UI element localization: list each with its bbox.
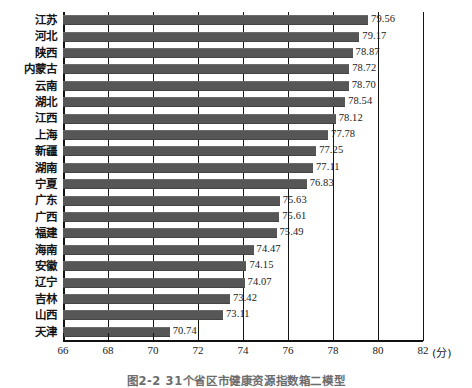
y-axis-label-19: 天津 bbox=[35, 324, 57, 340]
y-axis-label-17: 吉林 bbox=[35, 291, 57, 307]
x-tick-78 bbox=[333, 333, 334, 341]
x-tick-72 bbox=[198, 333, 199, 341]
bar-value-label: 73.42 bbox=[233, 292, 257, 303]
bar bbox=[63, 81, 349, 91]
bar bbox=[63, 15, 368, 25]
bar-value-label: 77.78 bbox=[331, 128, 355, 139]
bar-value-label: 78.72 bbox=[352, 62, 376, 73]
bar bbox=[63, 130, 328, 140]
bar-row: 78.70 bbox=[63, 78, 423, 94]
bar bbox=[63, 97, 345, 107]
x-tick-66 bbox=[63, 333, 64, 341]
y-axis-label-12: 广西 bbox=[35, 209, 57, 225]
bar-rows: 79.5679.1778.8778.7278.7078.5478.1277.78… bbox=[63, 12, 423, 340]
bar-row: 77.78 bbox=[63, 127, 423, 143]
bar-value-label: 76.83 bbox=[310, 177, 334, 188]
bar bbox=[63, 114, 336, 124]
y-axis-label-16: 辽宁 bbox=[35, 274, 57, 290]
bar-value-label: 78.54 bbox=[348, 95, 372, 106]
y-axis-label-2: 陕西 bbox=[35, 45, 57, 61]
bar bbox=[63, 179, 307, 189]
y-axis-label-9: 湖南 bbox=[35, 160, 57, 176]
bar bbox=[63, 278, 245, 288]
bar-row: 79.17 bbox=[63, 28, 423, 44]
bar-row: 75.49 bbox=[63, 225, 423, 241]
y-axis-label-15: 安徽 bbox=[35, 258, 57, 274]
bar bbox=[63, 245, 254, 255]
y-axis-label-0: 江苏 bbox=[35, 12, 57, 28]
x-tick-label-80: 80 bbox=[373, 344, 384, 356]
bar-row: 74.15 bbox=[63, 258, 423, 274]
bar-chart: 江苏河北陕西内蒙古云南湖北江西上海新疆湖南宁夏广东广西福建海南安徽辽宁吉林山西天… bbox=[0, 0, 472, 388]
bar-value-label: 74.07 bbox=[248, 276, 272, 287]
x-tick-label-76: 76 bbox=[283, 344, 294, 356]
y-axis-label-1: 河北 bbox=[35, 28, 57, 44]
x-tick-label-82: 82 bbox=[418, 344, 429, 356]
bar-row: 74.47 bbox=[63, 242, 423, 258]
bar-value-label: 75.49 bbox=[280, 226, 304, 237]
bar bbox=[63, 212, 279, 222]
x-tick-76 bbox=[288, 333, 289, 341]
x-tick-label-74: 74 bbox=[238, 344, 249, 356]
bar bbox=[63, 294, 230, 304]
bar-row: 77.11 bbox=[63, 160, 423, 176]
y-axis-label-13: 福建 bbox=[35, 225, 57, 241]
y-axis-label-3: 内蒙古 bbox=[24, 61, 57, 77]
y-axis-label-8: 新疆 bbox=[35, 143, 57, 159]
x-tick-82 bbox=[423, 333, 424, 341]
bar-value-label: 79.56 bbox=[371, 13, 395, 24]
bar bbox=[63, 196, 280, 206]
bar bbox=[63, 48, 353, 58]
bar-value-label: 73.11 bbox=[226, 308, 250, 319]
bar bbox=[63, 163, 313, 173]
bar-value-label: 78.87 bbox=[356, 46, 380, 57]
bar-value-label: 77.25 bbox=[319, 144, 343, 155]
figure-caption: 图2-2 31个省区市健康资源指数箱二模型 bbox=[0, 372, 472, 388]
bar-row: 76.83 bbox=[63, 176, 423, 192]
x-tick-80 bbox=[378, 333, 379, 341]
plot-area: 79.5679.1778.8778.7278.7078.5478.1277.78… bbox=[63, 12, 423, 340]
y-axis-label-18: 山西 bbox=[35, 307, 57, 323]
bar-row: 78.72 bbox=[63, 61, 423, 77]
bar-row: 78.12 bbox=[63, 110, 423, 126]
bar bbox=[63, 32, 359, 42]
y-axis-label-11: 广东 bbox=[35, 192, 57, 208]
x-tick-label-70: 70 bbox=[148, 344, 159, 356]
y-axis-category-labels: 江苏河北陕西内蒙古云南湖北江西上海新疆湖南宁夏广东广西福建海南安徽辽宁吉林山西天… bbox=[0, 12, 61, 340]
bar-value-label: 75.63 bbox=[283, 194, 307, 205]
y-axis-label-10: 宁夏 bbox=[35, 176, 57, 192]
bar-row: 78.87 bbox=[63, 45, 423, 61]
x-tick-label-78: 78 bbox=[328, 344, 339, 356]
bar-row: 73.42 bbox=[63, 291, 423, 307]
bar-row: 74.07 bbox=[63, 274, 423, 290]
bar-value-label: 78.70 bbox=[352, 79, 376, 90]
bar-value-label: 78.12 bbox=[339, 112, 363, 123]
x-tick-label-66: 66 bbox=[58, 344, 69, 356]
x-tick-74 bbox=[243, 333, 244, 341]
x-tick-label-68: 68 bbox=[103, 344, 114, 356]
x-axis-unit-label: (分) bbox=[432, 344, 452, 360]
bar bbox=[63, 146, 316, 156]
bar-row: 77.25 bbox=[63, 143, 423, 159]
bar bbox=[63, 261, 246, 271]
x-tick-68 bbox=[108, 333, 109, 341]
bar-row: 75.63 bbox=[63, 192, 423, 208]
bar-row: 75.61 bbox=[63, 209, 423, 225]
y-axis-label-7: 上海 bbox=[35, 127, 57, 143]
y-axis-label-4: 云南 bbox=[35, 78, 57, 94]
bar-row: 78.54 bbox=[63, 94, 423, 110]
bar-value-label: 75.61 bbox=[282, 210, 306, 221]
y-axis-label-14: 海南 bbox=[35, 242, 57, 258]
bar-value-label: 79.17 bbox=[362, 30, 386, 41]
bar-value-label: 74.47 bbox=[257, 243, 281, 254]
x-tick-70 bbox=[153, 333, 154, 341]
bar bbox=[63, 64, 349, 74]
bar-row: 79.56 bbox=[63, 12, 423, 28]
bar bbox=[63, 228, 277, 238]
y-axis-label-5: 湖北 bbox=[35, 94, 57, 110]
y-axis-label-6: 江西 bbox=[35, 110, 57, 126]
bar-value-label: 77.11 bbox=[316, 161, 340, 172]
bar-value-label: 74.15 bbox=[249, 259, 273, 270]
gridline-82 bbox=[423, 12, 424, 340]
bar-row: 73.11 bbox=[63, 307, 423, 323]
